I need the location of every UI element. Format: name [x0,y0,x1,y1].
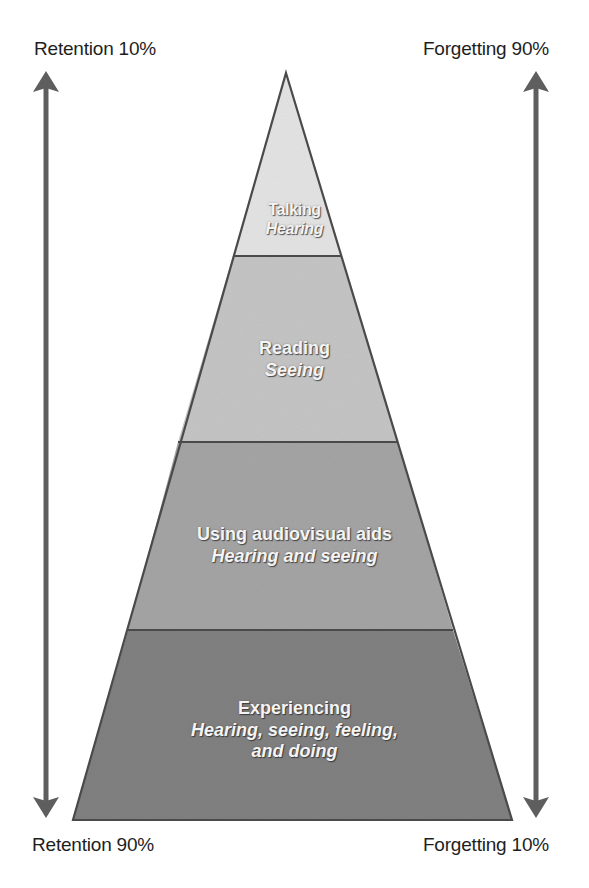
tier-title: Talking [0,200,589,219]
retention-bottom-label: Retention 90% [32,834,154,856]
retention-top-label: Retention 10% [34,38,156,60]
tier-talking: Talking Hearing [0,200,589,238]
forgetting-top-label: Forgetting 90% [423,38,549,60]
tier-subtitle: Seeing [0,360,589,382]
tier-audiovisual: Using audiovisual aids Hearing and seein… [0,524,589,567]
tier-reading: Reading Seeing [0,338,589,381]
tier-experiencing: Experiencing Hearing, seeing, feeling, a… [0,698,589,763]
tier-title: Reading [0,338,589,360]
tier-subtitle: Hearing and seeing [0,546,589,568]
tier-title: Using audiovisual aids [0,524,589,546]
tier-subtitle-line-2: and doing [0,741,589,763]
tier-subtitle-line-1: Hearing, seeing, feeling, [0,720,589,742]
forgetting-bottom-label: Forgetting 10% [423,834,549,856]
tier-title: Experiencing [0,698,589,720]
tier-subtitle: Hearing [0,219,589,238]
